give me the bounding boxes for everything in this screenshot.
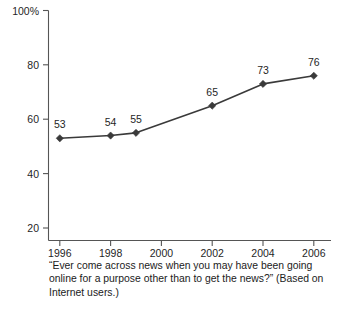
- data-point-label: 76: [308, 56, 320, 68]
- y-tick-label: 100%: [12, 5, 39, 17]
- data-point-marker: [209, 102, 216, 109]
- source-note: [5, 303, 345, 312]
- data-point-labels: 535455657376: [54, 56, 320, 131]
- data-point-marker: [132, 129, 139, 136]
- data-point-marker: [310, 72, 317, 79]
- y-tick-label: 60: [27, 113, 39, 125]
- figure-caption: “Ever come across news when you may have…: [49, 259, 337, 299]
- y-tick-label: 80: [27, 59, 39, 71]
- x-tick-label: 2006: [302, 247, 326, 259]
- data-point-label: 73: [257, 64, 269, 76]
- x-tick-marks: [60, 241, 314, 247]
- data-point-label: 55: [130, 113, 142, 125]
- y-axis-tick-labels: 100% 80 60 40 20: [12, 5, 39, 235]
- data-series-line: [60, 76, 314, 139]
- y-tick-label: 40: [27, 168, 39, 180]
- data-point-markers: [56, 72, 317, 142]
- y-tick-label: 20: [27, 222, 39, 234]
- data-point-marker: [107, 132, 114, 139]
- data-point-marker: [56, 135, 63, 142]
- data-point-label: 65: [206, 86, 218, 98]
- chart-figure: 100% 80 60 40 20 1996 1998 2000 2002 200…: [0, 0, 349, 314]
- x-axis-tick-labels: 1996 1998 2000 2002 2004 2006: [48, 247, 326, 259]
- x-tick-label: 1996: [48, 247, 72, 259]
- data-point-label: 54: [105, 116, 117, 128]
- x-tick-label: 2002: [201, 247, 225, 259]
- x-tick-label: 1998: [99, 247, 123, 259]
- x-tick-label: 2004: [251, 247, 275, 259]
- y-tick-marks: [43, 11, 49, 229]
- data-point-marker: [259, 80, 266, 87]
- line-chart-plot: 100% 80 60 40 20 1996 1998 2000 2002 200…: [0, 0, 349, 260]
- data-point-label: 53: [54, 118, 66, 130]
- x-tick-label: 2000: [150, 247, 174, 259]
